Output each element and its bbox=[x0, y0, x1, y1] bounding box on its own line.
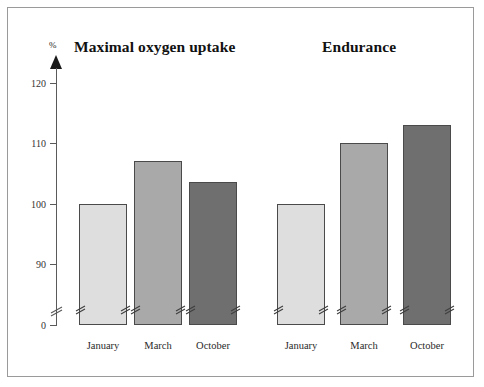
bar-break-icon bbox=[399, 302, 410, 316]
bar-break-icon bbox=[175, 302, 186, 316]
bar-break-icon bbox=[75, 302, 86, 316]
y-tick-label: 0 bbox=[20, 320, 46, 331]
y-tick-mark bbox=[50, 264, 57, 265]
bar-break-icon bbox=[318, 302, 329, 316]
y-axis-unit-label: % bbox=[49, 40, 57, 50]
bar-break-icon bbox=[381, 302, 392, 316]
y-axis-line bbox=[56, 68, 57, 326]
y-axis-break-icon bbox=[50, 302, 64, 318]
bar-mou-october bbox=[189, 182, 237, 325]
x-axis-label-march: March bbox=[350, 340, 377, 351]
bar-mou-january bbox=[79, 204, 127, 325]
y-tick-mark bbox=[50, 204, 57, 205]
x-axis-label-january: January bbox=[87, 340, 120, 351]
x-axis-label-march: March bbox=[144, 340, 171, 351]
bar-break-icon bbox=[336, 302, 347, 316]
bar-end-january bbox=[277, 204, 325, 325]
bar-break-icon bbox=[273, 302, 284, 316]
bar-break-icon bbox=[130, 302, 141, 316]
y-axis-arrow-icon bbox=[50, 55, 62, 69]
bar-end-october bbox=[403, 125, 451, 325]
chart-page: Maximal oxygen uptake Endurance % 120110… bbox=[0, 0, 484, 387]
bar-break-icon bbox=[120, 302, 131, 316]
y-tick-mark bbox=[50, 143, 57, 144]
y-tick-mark bbox=[50, 325, 57, 326]
bar-break-icon bbox=[444, 302, 455, 316]
plot-area: Maximal oxygen uptake Endurance % 120110… bbox=[0, 0, 484, 387]
y-tick-label: 100 bbox=[20, 199, 46, 210]
y-tick-label: 110 bbox=[20, 138, 46, 149]
x-axis-label-october: October bbox=[196, 340, 230, 351]
x-axis-label-october: October bbox=[410, 340, 444, 351]
chart-title-maximal-oxygen-uptake: Maximal oxygen uptake bbox=[74, 38, 235, 56]
bar-end-march bbox=[340, 143, 388, 325]
y-tick-label: 120 bbox=[20, 78, 46, 89]
bar-break-icon bbox=[185, 302, 196, 316]
chart-title-endurance: Endurance bbox=[322, 38, 396, 56]
y-tick-mark bbox=[50, 83, 57, 84]
x-axis-label-january: January bbox=[285, 340, 318, 351]
bar-break-icon bbox=[230, 302, 241, 316]
bar-mou-march bbox=[134, 161, 182, 325]
y-tick-label: 90 bbox=[20, 259, 46, 270]
